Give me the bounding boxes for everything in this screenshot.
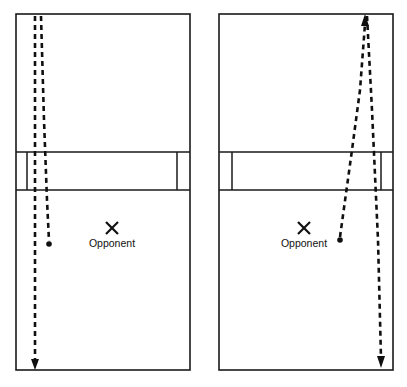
right-opponent-x-icon: [298, 222, 310, 234]
left-return-arrow-head: [31, 359, 39, 370]
left-shuttle-dot: [46, 241, 52, 247]
court-diagram-svg: Opponent Opponent: [0, 0, 407, 387]
left-opponent-x-icon: [106, 222, 118, 234]
left-trajectory-incoming-shot: [41, 16, 49, 241]
left-opponent-label: Opponent: [89, 237, 135, 249]
right-return-arrow-head: [377, 356, 385, 368]
right-trajectory-incoming-shot: [340, 24, 365, 237]
right-opponent-label: Opponent: [281, 237, 327, 249]
left-court-diagram: Opponent: [16, 14, 190, 370]
right-shuttle-dot: [337, 237, 343, 243]
right-trajectory-return-shot: [367, 16, 381, 358]
left-court-outer-boundary: [16, 14, 190, 370]
right-court-outer-boundary: [219, 14, 393, 370]
right-court-diagram: Opponent: [219, 14, 393, 370]
diagram-root: Opponent Opponent: [0, 0, 407, 387]
